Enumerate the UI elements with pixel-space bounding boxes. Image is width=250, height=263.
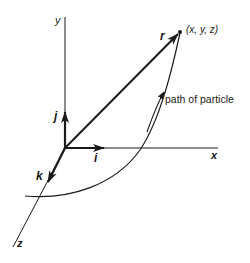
position-vector-r — [65, 34, 178, 148]
unit-vector-k — [48, 148, 65, 182]
diagram-canvas: y x z j i k r (x, y, z) path of particle — [0, 0, 250, 263]
particle-path — [25, 33, 180, 197]
x-axis-label: x — [210, 149, 218, 161]
point-marker — [178, 30, 182, 34]
unit-vector-i-label: i — [94, 151, 98, 165]
path-direction-arrow — [147, 92, 164, 132]
path-label: path of particle — [165, 93, 234, 105]
coordinate-diagram: y x z j i k r (x, y, z) path of particle — [0, 0, 250, 263]
unit-vector-k-label: k — [36, 169, 44, 183]
position-vector-label: r — [160, 29, 166, 43]
y-axis-label: y — [54, 14, 62, 26]
point-label: (x, y, z) — [186, 24, 218, 35]
z-axis-label: z — [16, 237, 23, 249]
unit-vector-j-label: j — [52, 109, 58, 123]
